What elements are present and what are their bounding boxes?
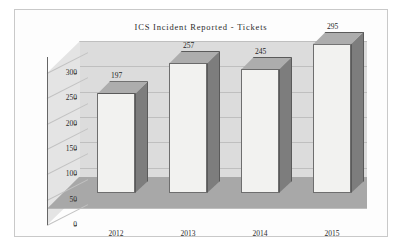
bar-side-face — [279, 57, 292, 193]
bar-value-label: 295 — [307, 22, 358, 31]
y-axis-tick-label: 0 — [47, 220, 77, 229]
y-axis-tick-mark — [74, 124, 77, 125]
y-axis-tick-label: 150 — [47, 144, 77, 153]
bar-value-label: 245 — [235, 47, 286, 56]
y-axis-tick-mark — [74, 149, 77, 150]
y-axis-tick-mark — [74, 73, 77, 74]
bar-front-face — [313, 44, 351, 193]
bar-side-face — [135, 81, 148, 193]
chart-frame: ICS Incident Reported - Tickets 05010015… — [14, 9, 388, 237]
y-axis-tick-label: 250 — [47, 93, 77, 102]
x-axis-tick-label: 2013 — [152, 229, 224, 238]
chart-page: ICS Incident Reported - Tickets 05010015… — [0, 0, 402, 247]
y-axis-tick-mark — [74, 225, 77, 226]
y-axis-tick-label: 300 — [47, 68, 77, 77]
x-axis-tick-label: 2015 — [296, 229, 368, 238]
bar-side-face — [351, 32, 364, 193]
y-axis-tick-label: 100 — [47, 169, 77, 178]
y-axis-tick-label: 50 — [47, 195, 77, 204]
x-axis-tick-label: 2014 — [224, 229, 296, 238]
y-axis-tick-mark — [74, 174, 77, 175]
x-axis-tick-label: 2012 — [80, 229, 152, 238]
y-axis-labels: 050100150200250300 — [31, 37, 77, 223]
y-axis-tick-label: 200 — [47, 119, 77, 128]
bar-front-face — [169, 63, 207, 193]
bar-value-label: 197 — [91, 71, 142, 80]
bar-side-face — [207, 51, 220, 193]
plot-area: 050100150200250300 197257245295 20122013… — [31, 37, 373, 223]
y-axis-tick-mark — [74, 98, 77, 99]
y-axis-tick-mark — [74, 200, 77, 201]
bar-value-label: 257 — [163, 41, 214, 50]
bar-front-face — [241, 69, 279, 193]
x-axis-labels: 2012201320142015 — [47, 229, 377, 243]
bar-front-face — [97, 93, 135, 193]
